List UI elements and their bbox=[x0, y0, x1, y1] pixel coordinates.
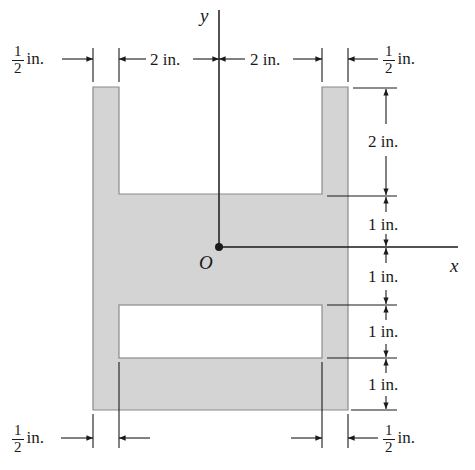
dim-upper-slot-depth: 2 in. bbox=[368, 133, 398, 150]
fraction-denominator: 2 bbox=[12, 61, 24, 77]
unit-label: in. bbox=[27, 49, 44, 68]
unit-label: in. bbox=[398, 49, 415, 68]
dim-bottom-band: 1 in. bbox=[368, 376, 398, 393]
dim-below-origin: 1 in. bbox=[368, 268, 398, 285]
lower-cutout bbox=[119, 305, 322, 358]
unit-label: in. bbox=[398, 428, 415, 447]
fraction-denominator: 2 bbox=[12, 440, 24, 456]
x-axis-label: x bbox=[450, 256, 458, 275]
y-axis-label: y bbox=[200, 6, 208, 25]
fraction-numerator: 1 bbox=[12, 423, 24, 440]
dim-lower-slot-height: 1 in. bbox=[368, 323, 398, 340]
origin-label: O bbox=[199, 253, 213, 272]
fraction-numerator: 1 bbox=[12, 44, 24, 61]
dim-bottom-right-wall: 12in. bbox=[383, 423, 415, 456]
dim-top-left-wall: 12in. bbox=[12, 44, 44, 77]
fraction-numerator: 1 bbox=[383, 44, 395, 61]
fraction-denominator: 2 bbox=[383, 61, 395, 77]
dim-top-right-wall: 12in. bbox=[383, 44, 415, 77]
dim-top-left-gap: 2 in. bbox=[150, 51, 180, 68]
origin-point bbox=[215, 243, 223, 251]
fraction-numerator: 1 bbox=[383, 423, 395, 440]
unit-label: in. bbox=[27, 428, 44, 447]
dim-top-right-gap: 2 in. bbox=[250, 51, 280, 68]
top-extension-lines bbox=[93, 48, 348, 82]
dim-bottom-left-wall: 12in. bbox=[12, 423, 44, 456]
fraction-denominator: 2 bbox=[383, 440, 395, 456]
dim-above-origin: 1 in. bbox=[368, 216, 398, 233]
